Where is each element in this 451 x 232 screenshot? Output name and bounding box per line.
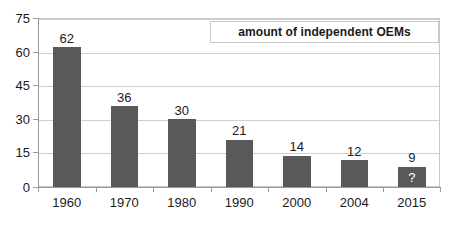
bar-chart: 75 60 45 30 15 0 62 36 30 21 14 12 9 ? 1… bbox=[0, 0, 451, 232]
y-axis-label-15: 15 bbox=[2, 146, 30, 159]
bar-value-2015: 9 bbox=[392, 151, 432, 164]
x-axis-label-1980: 1980 bbox=[157, 196, 207, 209]
gridline-60 bbox=[39, 53, 439, 54]
y-tick-15 bbox=[33, 152, 38, 153]
x-tick-4 bbox=[268, 188, 269, 192]
x-tick-6 bbox=[383, 188, 384, 192]
y-tick-30 bbox=[33, 119, 38, 120]
bar-1960 bbox=[53, 47, 81, 187]
bar-1970 bbox=[111, 106, 139, 187]
y-axis-line bbox=[38, 18, 39, 187]
gridline-75 bbox=[39, 19, 439, 20]
bar-value-1980: 30 bbox=[162, 104, 202, 117]
bar-1990 bbox=[226, 140, 254, 187]
x-tick-1 bbox=[96, 188, 97, 192]
y-tick-60 bbox=[33, 52, 38, 53]
x-tick-5 bbox=[326, 188, 327, 192]
y-tick-75 bbox=[33, 18, 38, 19]
gridline-30 bbox=[39, 120, 439, 121]
x-axis-label-1990: 1990 bbox=[214, 196, 264, 209]
x-axis-label-2004: 2004 bbox=[329, 196, 379, 209]
x-tick-7 bbox=[440, 188, 441, 192]
y-axis-label-30: 30 bbox=[2, 113, 30, 126]
y-axis-label-60: 60 bbox=[2, 46, 30, 59]
x-axis-line bbox=[38, 187, 441, 188]
x-tick-0 bbox=[38, 188, 39, 192]
x-tick-2 bbox=[153, 188, 154, 192]
bar-value-1990: 21 bbox=[219, 124, 259, 137]
y-axis-label-75: 75 bbox=[2, 12, 30, 25]
gridline-45 bbox=[39, 86, 439, 87]
y-axis-label-0: 0 bbox=[2, 181, 30, 194]
bar-1980 bbox=[168, 119, 196, 187]
x-axis-label-2015: 2015 bbox=[387, 196, 437, 209]
x-axis-label-1970: 1970 bbox=[99, 196, 149, 209]
x-tick-3 bbox=[211, 188, 212, 192]
bar-value-2004: 12 bbox=[334, 145, 374, 158]
bar-value-2000: 14 bbox=[277, 140, 317, 153]
x-axis-label-2000: 2000 bbox=[272, 196, 322, 209]
x-axis-label-1960: 1960 bbox=[42, 196, 92, 209]
bar-2000 bbox=[283, 156, 311, 188]
legend-label: amount of independent OEMs bbox=[238, 25, 411, 39]
legend: amount of independent OEMs bbox=[210, 21, 439, 43]
y-tick-45 bbox=[33, 85, 38, 86]
bar-value-1960: 62 bbox=[47, 32, 87, 45]
bar-value-1970: 36 bbox=[104, 91, 144, 104]
y-axis-label-45: 45 bbox=[2, 79, 30, 92]
bar-2004 bbox=[341, 160, 369, 187]
bar-2015-question-mark-annotation: ? bbox=[398, 171, 426, 184]
